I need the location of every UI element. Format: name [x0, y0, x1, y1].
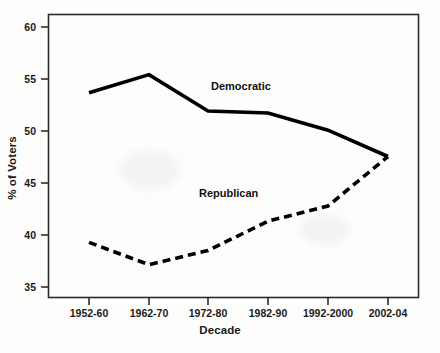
y-tick-marks [41, 27, 48, 287]
x-axis-title: Decade [0, 324, 440, 336]
chart-page: 60 55 50 45 40 35 1952-60 1962-70 1972-8… [0, 0, 440, 353]
line-chart-figure: 60 55 50 45 40 35 1952-60 1962-70 1972-8… [0, 0, 440, 353]
series-label-republican: Republican [199, 187, 258, 199]
x-tick-label: 2002-04 [353, 307, 423, 319]
y-tick-label: 60 [8, 21, 36, 33]
y-tick-label: 35 [8, 281, 36, 293]
y-tick-label: 40 [8, 229, 36, 241]
series-line-republican [89, 157, 388, 265]
series-label-democratic: Democratic [211, 80, 271, 92]
chart-plot-area [0, 0, 440, 353]
plot-frame [49, 15, 419, 298]
y-axis-title: % of Voters [6, 118, 18, 218]
y-tick-label: 55 [8, 73, 36, 85]
